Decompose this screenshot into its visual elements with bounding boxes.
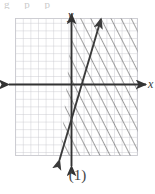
y-axis-label: y	[68, 9, 73, 21]
figure-caption: (1)	[0, 168, 155, 183]
x-axis-label: x	[148, 78, 153, 90]
clipped-header-text: g p p	[0, 0, 155, 9]
coordinate-plane-graphic	[0, 0, 155, 194]
graph-figure: g p p	[0, 0, 155, 194]
